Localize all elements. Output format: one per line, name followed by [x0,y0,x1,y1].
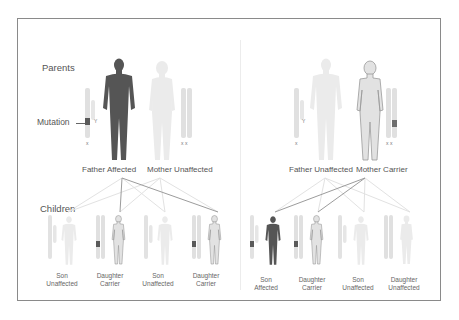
son-affected-figure [264,216,282,266]
child-label-son-unaffected: SonUnaffected [40,272,84,288]
child-chromosomes-xx [294,215,306,265]
child-chromosomes-xx [192,215,204,265]
mother-chromosomes-xx [180,88,194,140]
mother-unaffected-figure [146,60,178,162]
son-unaffected-figure [352,216,370,266]
child-chromosomes-xx [384,215,396,265]
child-label-daughter-carrier: DaughterCarrier [88,272,132,288]
child-label-daughter-carrier: DaughterCarrier [290,276,334,292]
daughter-carrier-figure [308,215,325,265]
child-label-son-affected: SonAffected [244,276,288,292]
child-chromosomes-xy [144,215,156,265]
mother-carrier-figure [354,60,386,162]
father-unaffected-label: Father Unaffected [289,165,353,174]
son-unaffected-figure [156,216,174,266]
daughter-unaffected-figure [398,215,415,265]
father-unaffected-figure [307,58,345,162]
x-marker: x [295,140,298,146]
father-affected-figure [100,58,138,162]
child-chromosomes-xy [48,215,60,265]
child-label-son-unaffected: SonUnaffected [336,276,380,292]
child-chromosomes-xy [250,215,262,265]
child-label-daughter-carrier: DaughterCarrier [184,272,228,288]
x-marker: x [86,140,89,146]
mother-carrier-label: Mother Carrier [356,165,408,174]
son-unaffected-figure [60,216,78,266]
child-chromosomes-xx [96,215,108,265]
father-chromosomes-xy [84,88,98,146]
daughter-carrier-figure [206,215,223,265]
mother-chromosomes-xx [385,88,399,140]
father-affected-label: Father Affected [82,165,136,174]
y-marker: Y [302,118,305,124]
xx-marker: x x [181,140,187,146]
daughter-carrier-figure [110,215,127,265]
child-chromosomes-xy [338,215,350,265]
mother-unaffected-label: Mother Unaffected [147,165,213,174]
father-chromosomes-xy [293,88,307,146]
child-label-son-unaffected: SonUnaffected [136,272,180,288]
child-label-daughter-unaffected: DaughterUnaffected [382,276,426,292]
xx-marker: x x [386,140,392,146]
y-marker: Y [94,118,97,124]
